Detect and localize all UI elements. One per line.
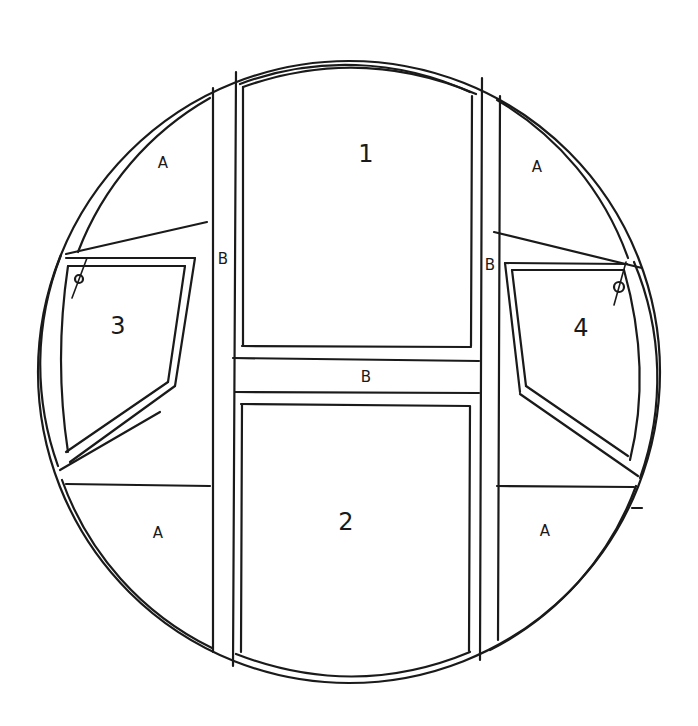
label-corner-bottom-left: A [153,526,163,541]
round-frame-sketch [0,0,698,726]
label-right-stile: B [485,258,495,273]
label-panel-4: 4 [573,316,588,340]
label-corner-top-left: A [158,156,168,171]
outer-frame-ring [38,61,660,683]
right-stile [480,78,500,660]
left-stile [213,72,236,666]
label-panel-2: 2 [338,510,353,534]
label-middle-rail: B [361,370,371,385]
label-corner-top-right: A [532,160,542,175]
panel-1-frame [242,68,476,347]
panel-2-frame [236,404,470,677]
label-panel-1: 1 [358,142,373,166]
label-left-stile: B [218,252,228,267]
label-corner-bottom-right: A [540,524,550,539]
middle-rail [233,358,479,393]
label-panel-3: 3 [110,314,125,338]
panel-4-window [494,232,642,508]
panel-3-window [60,222,210,486]
